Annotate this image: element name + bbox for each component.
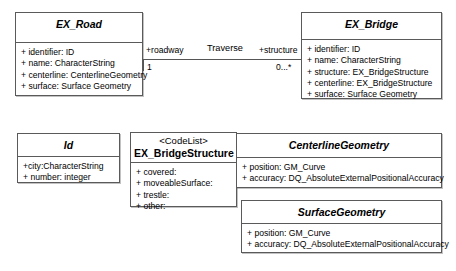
class-attributes-id: +city:CharacterString + number: integer (18, 157, 119, 188)
class-box-ex-road[interactable]: EX_Road + identifier: ID + name: Charact… (15, 12, 143, 96)
association-end-tick-source (143, 59, 144, 71)
attribute-row: + number: integer (23, 172, 115, 183)
class-title-ex-bridge-structure: <CodeList> EX_BridgeStructure (131, 133, 236, 163)
attribute-row: + surface: Surface Geometry (307, 89, 437, 100)
class-box-ex-bridge-structure[interactable]: <CodeList> EX_BridgeStructure + covered:… (130, 132, 237, 207)
attribute-row: + centerline: EX_BridgeStructure (307, 78, 437, 89)
class-attributes-surface-geometry: + position: GM_Curve + accuracy: DQ_Abso… (242, 224, 441, 255)
association-role-target: +structure (259, 45, 297, 55)
attribute-row: + other: (136, 201, 232, 212)
class-stereotype-codelist: <CodeList> (134, 135, 233, 147)
attribute-row: + structure: EX_BridgeStructure (307, 67, 437, 78)
attribute-row: + trestle: (136, 190, 232, 201)
association-multiplicity-target: 0...* (276, 62, 291, 72)
class-attributes-ex-road: + identifier: ID + name: CharacterString… (16, 43, 142, 96)
attribute-row: + name: CharacterString (307, 55, 437, 66)
class-box-ex-bridge[interactable]: EX_Bridge + identifier: ID + name: Chara… (301, 12, 442, 99)
attribute-row: + identifier: ID (307, 44, 437, 55)
attribute-row: + centerline: CenterlineGeometry (21, 70, 138, 81)
class-title-ex-road: EX_Road (16, 13, 142, 43)
class-box-surface-geometry[interactable]: SurfaceGeometry + position: GM_Curve + a… (241, 200, 442, 253)
class-box-centerline-geometry[interactable]: CenterlineGeometry + position: GM_Curve … (236, 133, 442, 188)
attribute-row: + moveableSurface: (136, 178, 232, 189)
association-line-roadway-structure (143, 59, 302, 60)
class-attributes-ex-bridge: + identifier: ID + name: CharacterString… (302, 40, 441, 104)
attribute-row: + identifier: ID (21, 47, 138, 58)
class-title-ex-bridge: EX_Bridge (302, 13, 441, 40)
class-attributes-ex-bridge-structure: + covered: + moveableSurface: + trestle:… (131, 163, 236, 216)
class-title-surface-geometry: SurfaceGeometry (242, 201, 441, 224)
class-attributes-centerline-geometry: + position: GM_Curve + accuracy: DQ_Abso… (237, 158, 441, 189)
association-multiplicity-source: 1 (147, 62, 152, 72)
attribute-row: + accuracy: DQ_AbsoluteExternalPositiona… (247, 239, 437, 250)
attribute-row: + name: CharacterString (21, 58, 138, 69)
attribute-row: + accuracy: DQ_AbsoluteExternalPositiona… (242, 173, 437, 184)
class-box-id[interactable]: Id +city:CharacterString + number: integ… (17, 133, 120, 183)
association-name: Traverse (207, 43, 243, 53)
attribute-row: + position: GM_Curve (247, 228, 437, 239)
attribute-row: + position: GM_Curve (242, 162, 437, 173)
association-role-source: +roadway (146, 45, 184, 55)
class-name-ex-bridge-structure: EX_BridgeStructure (134, 147, 233, 160)
class-title-centerline-geometry: CenterlineGeometry (237, 134, 441, 158)
attribute-row: + surface: Surface Geometry (21, 81, 138, 92)
attribute-row: +city:CharacterString (23, 161, 115, 172)
attribute-row: + covered: (136, 167, 232, 178)
uml-diagram-canvas: EX_Road + identifier: ID + name: Charact… (0, 0, 456, 271)
class-title-id: Id (18, 134, 119, 157)
